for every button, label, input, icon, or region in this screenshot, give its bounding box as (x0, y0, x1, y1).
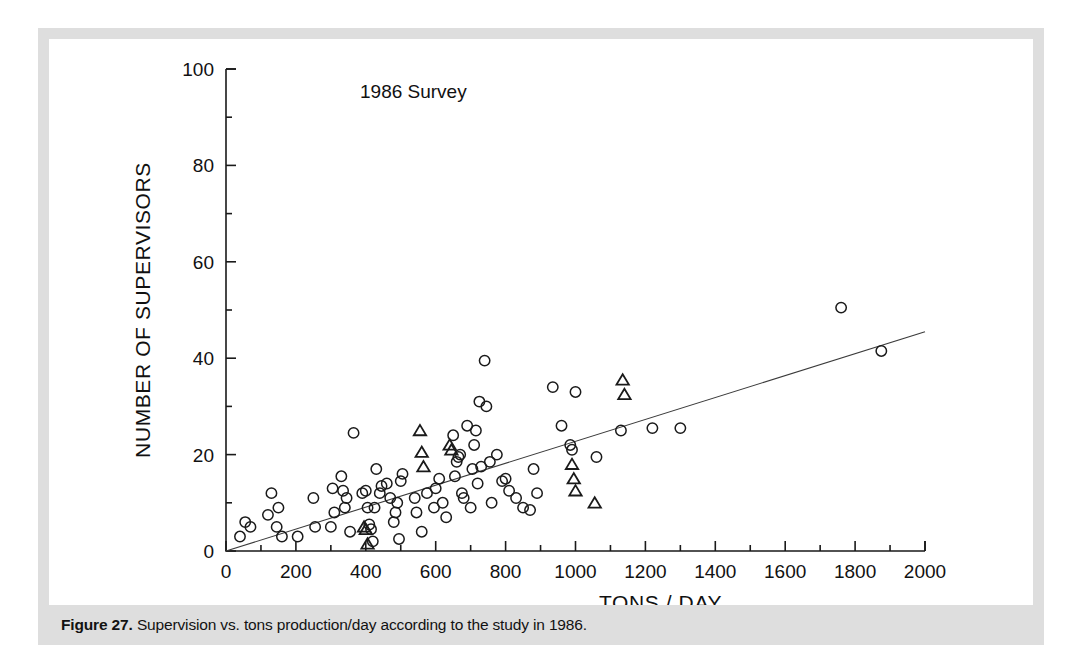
figure-container: 0204060801000200400600800100012001400160… (0, 0, 1090, 671)
figure-number: Figure 27. (61, 616, 133, 633)
figure-caption-text: Supervision vs. tons production/day acco… (133, 616, 587, 633)
figure-plot-panel (49, 39, 1033, 605)
figure-caption-band: Figure 27. Supervision vs. tons producti… (49, 605, 1033, 645)
figure-caption: Figure 27. Supervision vs. tons producti… (49, 616, 587, 634)
